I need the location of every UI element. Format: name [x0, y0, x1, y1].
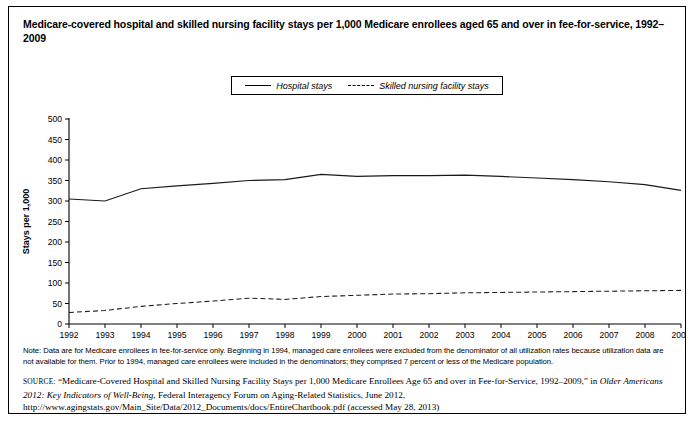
y-tick-label: 400 — [48, 155, 63, 165]
source-text-part1: “Medicare-Covered Hospital and Skilled N… — [56, 376, 600, 386]
data-series-group — [69, 174, 681, 312]
x-tick-label: 2003 — [455, 330, 474, 340]
plot-area: Hospital stays Skilled nursing facility … — [9, 65, 685, 340]
x-tick-label: 1999 — [311, 330, 330, 340]
x-tick-label: 2008 — [635, 330, 654, 340]
x-tick-label: 2001 — [383, 330, 402, 340]
x-tick-label: 2007 — [599, 330, 618, 340]
x-tick-label: 2009 — [671, 330, 685, 340]
x-tick-label: 1992 — [59, 330, 78, 340]
x-tick-label: 2006 — [563, 330, 582, 340]
y-tick-label: 300 — [48, 196, 63, 206]
source-label: SOURCE: — [23, 377, 56, 386]
y-tick-label: 0 — [57, 319, 62, 329]
series-line-skilled-nursing-facility-stays — [69, 290, 681, 312]
x-tick-label: 1994 — [131, 330, 150, 340]
chart-note: Note: Data are for Medicare enrollees in… — [23, 345, 673, 367]
y-tick-label: 350 — [48, 176, 63, 186]
chart-source: SOURCE: “Medicare-Covered Hospital and S… — [23, 375, 675, 414]
y-axis-title: Stays per 1,000 — [21, 189, 31, 255]
y-tick-label: 500 — [48, 114, 63, 124]
x-tick-label: 2002 — [419, 330, 438, 340]
chart-plot-svg: 050100150200250300350400450500 199219931… — [9, 65, 685, 340]
x-tick-label: 1993 — [95, 330, 114, 340]
y-tick-label: 50 — [52, 299, 62, 309]
x-tick-label: 1997 — [239, 330, 258, 340]
x-tick-label: 1996 — [203, 330, 222, 340]
x-axis-ticks: 1992199319941995199619971998199920002001… — [59, 324, 685, 340]
y-tick-label: 150 — [48, 258, 63, 268]
x-tick-label: 1998 — [275, 330, 294, 340]
x-tick-label: 2004 — [491, 330, 510, 340]
figure-frame: Medicare-covered hospital and skilled nu… — [8, 6, 686, 414]
x-tick-label: 2005 — [527, 330, 546, 340]
chart-title: Medicare-covered hospital and skilled nu… — [23, 17, 671, 45]
y-tick-label: 450 — [48, 135, 63, 145]
y-tick-label: 200 — [48, 237, 63, 247]
y-tick-label: 100 — [48, 278, 63, 288]
x-tick-label: 2000 — [347, 330, 366, 340]
y-tick-label: 250 — [48, 217, 63, 227]
y-axis-ticks: 050100150200250300350400450500 — [48, 114, 69, 329]
series-line-hospital-stays — [69, 174, 681, 201]
x-tick-label: 1995 — [167, 330, 186, 340]
